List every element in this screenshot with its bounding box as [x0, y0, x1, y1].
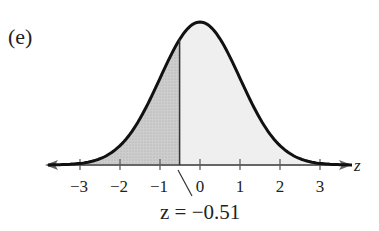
- shaded-right-region: [180, 22, 352, 165]
- shaded-left-region: [48, 39, 180, 165]
- axis-label: z: [353, 156, 361, 175]
- z-annotation: z = −0.51: [160, 200, 240, 224]
- tick-label: 2: [276, 177, 285, 196]
- normal-curve-figure: (e) z z = −0.51 −3 −2 −1 0 1 2 3: [0, 0, 379, 231]
- tick-label: 3: [316, 177, 325, 196]
- tick-label: −2: [110, 177, 128, 196]
- tick-label: 1: [236, 177, 245, 196]
- tick-label: 0: [196, 177, 205, 196]
- tick-label: −3: [70, 177, 88, 196]
- annotation-leader-line: [178, 170, 192, 196]
- panel-label: (e): [8, 24, 32, 49]
- tick-label: −1: [150, 177, 168, 196]
